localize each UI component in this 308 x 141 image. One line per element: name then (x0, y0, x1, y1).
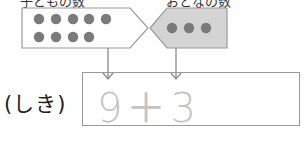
adults-dots (167, 23, 211, 33)
expression-answer-box[interactable]: 9＋3 (82, 72, 300, 126)
expression-label: (しき) (4, 87, 66, 117)
children-group-box (22, 8, 148, 48)
adults-group-box (150, 8, 227, 48)
expression-text: 9＋3 (97, 76, 200, 134)
